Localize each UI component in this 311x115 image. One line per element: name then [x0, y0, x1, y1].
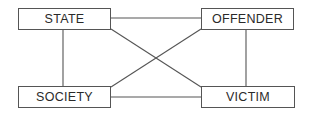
node-offender: OFFENDER — [201, 8, 294, 30]
node-victim: VICTIM — [201, 86, 295, 108]
node-state: STATE — [18, 8, 111, 30]
relationship-diagram: STATE OFFENDER SOCIETY VICTIM — [0, 0, 311, 115]
node-label: STATE — [45, 12, 85, 26]
node-label: VICTIM — [226, 90, 270, 104]
node-label: SOCIETY — [36, 90, 93, 104]
node-label: OFFENDER — [212, 12, 283, 26]
node-society: SOCIETY — [18, 86, 111, 108]
